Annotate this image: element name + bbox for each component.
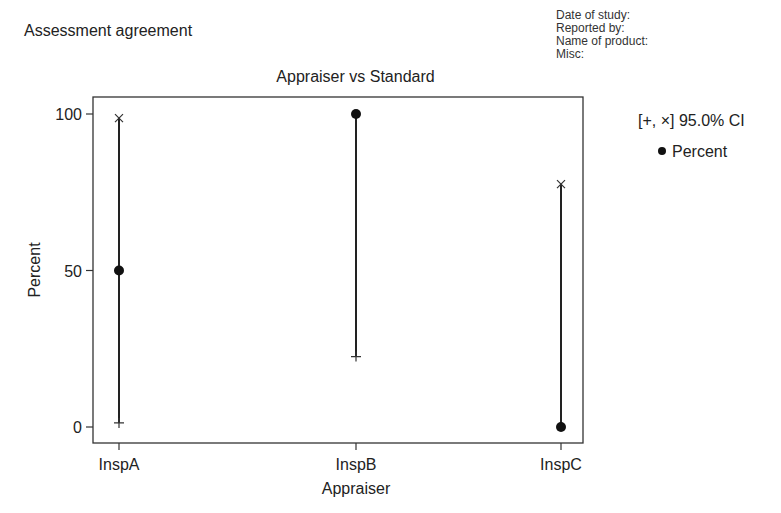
plus-marker-icon: [351, 352, 361, 362]
plot-frame: [93, 97, 583, 443]
y-tick-label: 100: [55, 106, 82, 123]
data-series: [114, 109, 566, 432]
percent-point: [114, 266, 124, 276]
y-axis-label: Percent: [26, 242, 43, 298]
chart-svg: 050100 InspAInspBInspC Percent Appraiser: [0, 0, 781, 513]
plus-marker-icon: [114, 418, 124, 428]
y-tick-label: 0: [73, 419, 82, 436]
x-tick-label: InspA: [99, 456, 140, 473]
percent-point: [351, 109, 361, 119]
x-tick-label: InspB: [336, 456, 377, 473]
x-axis-label: Appraiser: [322, 480, 391, 497]
y-tick-label: 50: [64, 263, 82, 280]
x-axis: InspAInspBInspC: [99, 443, 582, 473]
x-tick-label: InspC: [540, 456, 582, 473]
percent-point: [556, 422, 566, 432]
y-axis: 050100: [55, 106, 93, 436]
